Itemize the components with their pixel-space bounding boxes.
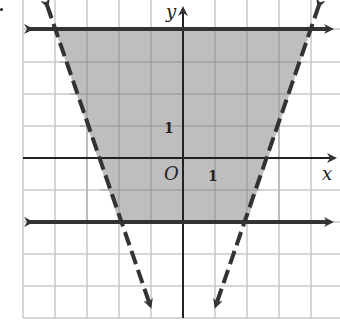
- y-axis-label: y: [165, 1, 177, 22]
- origin-label: O: [164, 163, 179, 184]
- x-axis-label: x: [322, 163, 332, 184]
- inequality-graph: y x O 1 1: [0, 0, 340, 320]
- y-tick-label: 1: [164, 120, 174, 136]
- x-tick-label: 1: [208, 168, 218, 184]
